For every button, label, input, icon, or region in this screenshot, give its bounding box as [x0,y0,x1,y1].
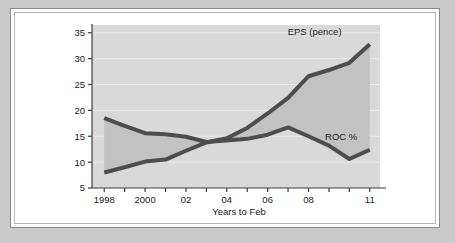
series-label-roc: ROC % [325,131,358,142]
y-axis-tick-label: 30 [74,53,85,64]
y-axis-tick-label: 35 [74,27,85,38]
y-axis-tick-label: 10 [74,157,85,168]
x-axis-tick-label: 06 [262,194,273,205]
line-chart: 5101520253035 199820000204060811 EPS (pe… [0,0,455,243]
series-label-eps: EPS (pence) [288,26,342,37]
y-axis-tick-label: 15 [74,131,85,142]
chart-page: 5101520253035 199820000204060811 EPS (pe… [0,0,455,243]
x-axis-tick-label: 04 [222,194,233,205]
x-axis-tick-labels: 199820000204060811 [94,194,375,205]
y-axis-tick-label: 20 [74,105,85,116]
x-axis-title: Years to Feb [212,206,266,217]
x-axis-ticks [104,188,370,192]
x-axis-tick-label: 08 [303,194,314,205]
x-axis-tick-label: 11 [365,194,375,205]
y-axis-tick-labels: 5101520253035 [74,27,85,193]
y-axis-tick-label: 5 [80,182,85,193]
y-axis-tick-label: 25 [74,79,85,90]
x-axis-tick-label: 02 [181,194,192,205]
x-axis-tick-label: 1998 [94,194,115,205]
x-axis-tick-label: 2000 [135,194,156,205]
